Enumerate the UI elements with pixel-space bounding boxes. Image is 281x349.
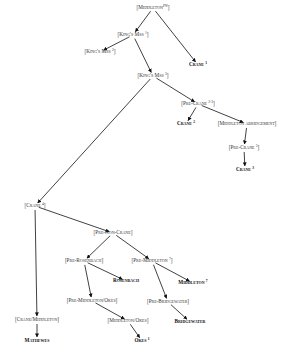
stemma-node-crane-3: Crane 3	[236, 167, 254, 172]
node-label: [King's Mss	[118, 31, 145, 37]
node-bracket: ]	[168, 4, 170, 10]
node-label: Crane	[177, 120, 193, 126]
stemma-node-crane-middleton: [Crane/Middleton]	[15, 317, 59, 322]
node-bracket: ]	[213, 100, 215, 106]
stemma-node-kings-mss-3: [King's Mss 3]	[138, 73, 169, 78]
node-label: Bridgewater	[175, 318, 206, 324]
edge-pre-crane-3-to-crane-3	[244, 152, 245, 166]
edge-kings-mss-3-to-crane-4	[38, 79, 151, 203]
node-bracket: ]	[101, 257, 103, 263]
node-label: [Pre-Middleton/Okes	[67, 297, 116, 303]
node-label: Crane	[189, 61, 205, 67]
node-bracket: ]	[167, 72, 169, 78]
node-label: Okes	[134, 337, 147, 343]
node-label: [Pre-Bridgewater	[147, 298, 187, 304]
stemma-node-middleton-pw: [MiddletonPw]	[136, 5, 169, 10]
node-superscript: 3	[252, 166, 254, 170]
stemma-node-kings-mss-2: [King's Mss 2]	[85, 49, 116, 54]
node-label: [Crane/Middleton	[15, 316, 57, 322]
edge-crane-4-to-crane-middleton	[35, 210, 37, 316]
stemma-node-pre-rosenbach: [Pre-Rosenbach]	[65, 258, 103, 263]
node-bracket: ]	[114, 48, 116, 54]
node-bracket: ]	[275, 120, 277, 126]
node-bracket: ]	[258, 144, 260, 150]
node-label: [King's Mss	[138, 72, 165, 78]
node-label: Crane	[236, 166, 252, 172]
node-superscript: 2	[193, 120, 195, 124]
edge-pre-non-crane-to-pre-middleton-7	[116, 235, 149, 258]
edge-pre-non-crane-to-pre-rosenbach	[87, 236, 110, 258]
node-bracket: ]	[171, 257, 173, 263]
edge-pre-middleton-7-to-middleton-7	[156, 263, 190, 281]
stemma-node-mathewes: Mathewes	[25, 338, 50, 343]
stemma-node-pre-non-crane: [Pre-Non-Crane]	[94, 230, 133, 235]
edge-kings-mss-3-to-pre-crane-2-3	[156, 78, 194, 102]
stemma-node-crane-1: Crane 1	[189, 62, 207, 67]
node-bracket: ]	[187, 298, 189, 304]
node-label: Mathewes	[25, 337, 50, 343]
node-label: [Crane	[25, 202, 42, 208]
node-label: Rosenbach	[113, 277, 139, 283]
edge-crane-4-to-pre-non-crane	[39, 207, 109, 231]
node-bracket: ]	[116, 297, 118, 303]
edge-middleton-pw-to-crane-1	[155, 11, 195, 62]
stemma-node-middleton-abridgement: [Middleton abridgement]	[218, 121, 277, 126]
edge-pre-bridgewater-to-bridgewater	[171, 305, 187, 320]
node-bracket: ]	[44, 202, 46, 208]
node-label: [Pre-Middleton	[131, 257, 169, 263]
stemma-node-pre-bridgewater: [Pre-Bridgewater]	[147, 299, 189, 304]
edge-pre-rosenbach-to-pre-middleton-okes	[85, 265, 91, 297]
node-label: [Pre-Crane	[229, 144, 256, 150]
stemma-node-pre-crane-3: [Pre-Crane 3]	[229, 145, 260, 150]
node-label: [Pre-Rosenbach	[65, 257, 101, 263]
node-label: Middleton	[178, 279, 205, 285]
node-superscript: 1	[148, 337, 150, 341]
stemma-node-crane-4: [Crane 4]	[25, 203, 46, 208]
stemma-edges	[0, 0, 281, 349]
node-bracket: ]	[147, 31, 149, 37]
stemma-node-pre-crane-2-3: [Pre-Crane 2-3]	[181, 101, 215, 106]
stemma-node-bridgewater: Bridgewater	[175, 319, 206, 324]
node-label: [Pre-Non-Crane	[94, 229, 131, 235]
stemma-node-pre-middleton-7: [Pre-Middleton 7]	[131, 258, 172, 263]
stemma-node-rosenbach: Rosenbach	[113, 278, 139, 283]
stemma-node-crane-2: Crane 2	[177, 121, 195, 126]
stemma-node-middleton-7: Middleton 7	[178, 280, 207, 285]
edge-middleton-pw-to-kings-mss-1	[135, 11, 150, 32]
node-label: [Middleton/Okes	[108, 317, 147, 323]
edge-pre-middleton-7-to-pre-bridgewater	[153, 265, 166, 299]
node-label: [Pre-Crane	[181, 100, 208, 106]
node-bracket: ]	[147, 317, 149, 323]
node-bracket: ]	[131, 229, 133, 235]
node-superscript: 7	[206, 279, 208, 283]
stemma-node-kings-mss-1: [King's Mss 1]	[118, 32, 149, 37]
edge-kings-mss-1-to-kings-mss-3	[135, 39, 151, 73]
edge-middleton-abridgement-to-pre-crane-3	[244, 128, 246, 144]
stemma-node-pre-middleton-okes: [Pre-Middleton/Okes]	[67, 298, 118, 303]
stemma-node-okes-1: Okes 1	[134, 338, 149, 343]
node-label: [King's Mss	[85, 48, 112, 54]
stemma-node-middleton-okes: [Middleton/Okes]	[108, 318, 149, 323]
node-bracket: ]	[57, 316, 59, 322]
edge-middleton-okes-to-okes-1	[130, 324, 139, 337]
node-label: [Middleton	[136, 4, 163, 10]
edge-pre-crane-2-3-to-crane-2	[188, 107, 196, 120]
node-superscript: 1	[205, 61, 207, 65]
node-label: [Middleton abridgement	[218, 120, 275, 126]
